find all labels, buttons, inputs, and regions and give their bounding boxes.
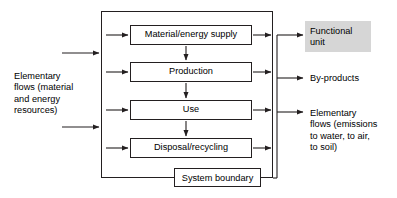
process-box-disposal-recycling[interactable]: Disposal/recycling (130, 138, 252, 158)
lca-system-boundary-diagram: Material/energy supply Production Use Di… (0, 0, 397, 198)
output-by-products-label: By-products (310, 73, 390, 84)
process-box-production[interactable]: Production (130, 62, 252, 82)
system-boundary-label: System boundary (182, 173, 254, 183)
output-functional-unit-label: Functional unit (310, 26, 368, 49)
output-elementary-flows-label: Elementary flows (emissions to water, to… (310, 108, 396, 154)
process-box-material-energy-supply[interactable]: Material/energy supply (130, 25, 252, 45)
process-label: Production (169, 67, 213, 76)
process-label: Material/energy supply (145, 30, 237, 39)
process-label: Disposal/recycling (154, 143, 228, 152)
process-box-use[interactable]: Use (130, 100, 252, 120)
input-elementary-flows-label: Elementary flows (material and energy re… (14, 71, 98, 117)
process-label: Use (183, 105, 199, 114)
system-boundary-label-box[interactable]: System boundary (174, 168, 261, 187)
